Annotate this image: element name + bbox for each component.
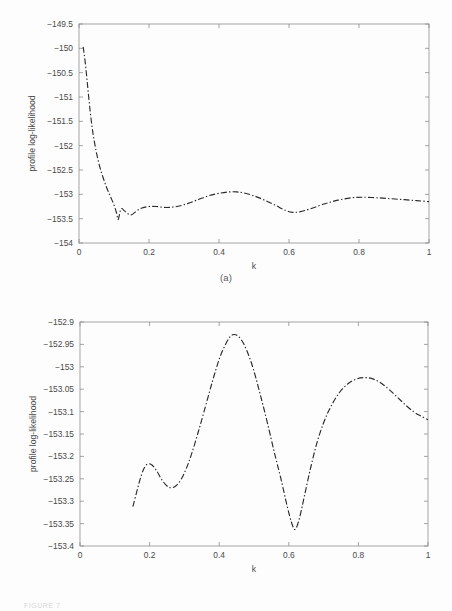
x-tick-label: 0.6 — [283, 550, 295, 560]
y-tick-label: −152.9 — [48, 317, 74, 327]
y-axis-title: profile log-likelihood — [27, 95, 37, 171]
y-axis-title: profile log-likelihood — [28, 396, 38, 472]
page-footnote: FIGURE 7 — [24, 602, 224, 609]
x-tick-label: 0.6 — [283, 247, 295, 257]
y-tick-label: −151.5 — [47, 116, 73, 126]
x-tick-label: 0 — [78, 550, 83, 560]
y-tick-label: −153.4 — [48, 541, 74, 551]
y-tick-label: −153.3 — [48, 496, 74, 506]
y-tick-label: −152.95 — [43, 339, 74, 349]
chart-a: 00.20.40.60.81−154−153.5−153−152.5−152−1… — [0, 0, 452, 300]
chart-b: 00.20.40.60.81−153.4−153.35−153.3−153.25… — [0, 300, 452, 611]
y-tick-label: −154 — [54, 238, 73, 248]
y-tick-label: −153.05 — [43, 384, 74, 394]
y-tick-label: −149.5 — [47, 19, 73, 29]
y-tick-label: −152 — [54, 141, 73, 151]
figure-page: 00.20.40.60.81−154−153.5−153−152.5−152−1… — [0, 0, 452, 611]
figure-panel-b: 00.20.40.60.81−153.4−153.35−153.3−153.25… — [0, 300, 452, 611]
x-axis-title: k — [252, 564, 257, 574]
plot-frame — [79, 24, 429, 243]
x-axis-title: k — [252, 261, 257, 271]
x-tick-label: 0.2 — [143, 247, 155, 257]
figure-panel-a: 00.20.40.60.81−154−153.5−153−152.5−152−1… — [0, 0, 452, 300]
y-tick-label: −151 — [54, 92, 73, 102]
x-tick-label: 0 — [77, 247, 82, 257]
data-curve — [133, 335, 428, 530]
y-tick-label: −150.5 — [47, 68, 73, 78]
y-tick-label: −153.35 — [43, 519, 74, 529]
y-tick-label: −153.15 — [43, 429, 74, 439]
y-tick-label: −153 — [54, 189, 73, 199]
x-tick-label: 0.8 — [353, 550, 365, 560]
x-tick-label: 1 — [426, 550, 431, 560]
data-curve — [83, 47, 429, 220]
y-tick-label: −153.25 — [43, 474, 74, 484]
x-tick-label: 1 — [427, 247, 432, 257]
y-tick-label: −153.5 — [47, 214, 73, 224]
y-tick-label: −150 — [54, 43, 73, 53]
y-tick-label: −153.2 — [48, 451, 74, 461]
x-tick-label: 0.4 — [213, 550, 225, 560]
y-tick-label: −153.1 — [48, 407, 74, 417]
x-tick-label: 0.2 — [144, 550, 156, 560]
x-tick-label: 0.8 — [353, 247, 365, 257]
x-tick-label: 0.4 — [213, 247, 225, 257]
plot-frame — [80, 322, 428, 546]
y-tick-label: −152.5 — [47, 165, 73, 175]
y-tick-label: −153 — [55, 362, 74, 372]
caption-a: (a) — [0, 272, 452, 283]
